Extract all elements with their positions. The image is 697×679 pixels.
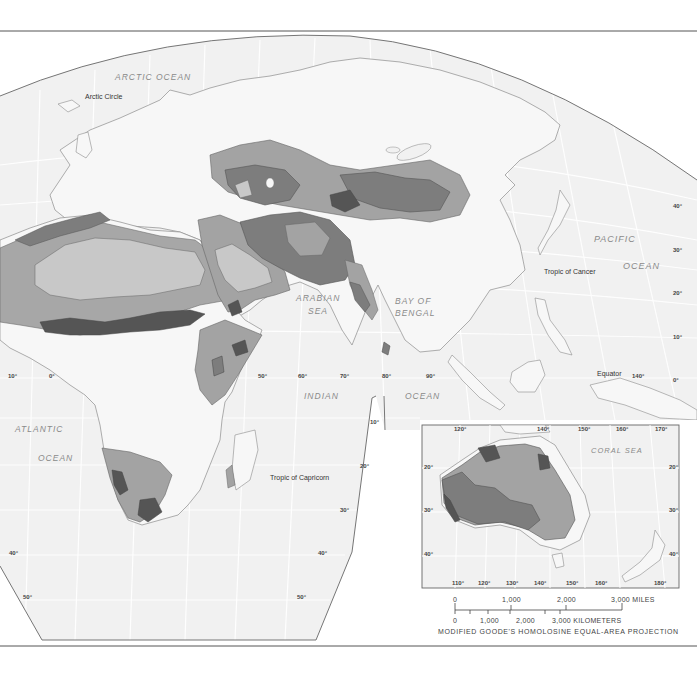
scale-miles-0: 0 bbox=[453, 596, 457, 603]
label-bay-of-bengal-1: BAY OF bbox=[395, 296, 431, 306]
inset-bottom-tick: 140° bbox=[534, 580, 546, 586]
label-pacific-ocean-1: PACIFIC bbox=[594, 234, 636, 244]
inset-top-tick: 150° bbox=[578, 426, 590, 432]
scale-km-1000: 1,000 bbox=[480, 617, 499, 624]
inset-right-tick: 20° bbox=[669, 464, 678, 470]
inset-top-tick: 160° bbox=[616, 426, 628, 432]
lat-tick-right: 0° bbox=[673, 377, 679, 383]
inset-top-tick: 140° bbox=[537, 426, 549, 432]
inset-top-tick: 120° bbox=[454, 426, 466, 432]
label-atlantic-ocean-2: OCEAN bbox=[38, 453, 73, 463]
scale-km-3000: 3,000 KILOMETERS bbox=[552, 617, 621, 624]
label-atlantic-ocean-1: ATLANTIC bbox=[15, 424, 63, 434]
inset-bottom-tick: 160° bbox=[595, 580, 607, 586]
inset-right-tick: 40° bbox=[669, 551, 678, 557]
scale-miles-3000: 3,000 MILES bbox=[611, 596, 655, 603]
label-arctic-ocean: ARCTIC OCEAN bbox=[115, 72, 191, 82]
label-tropic-of-cancer: Tropic of Cancer bbox=[544, 268, 595, 275]
lat-tick-right: 40° bbox=[673, 203, 682, 209]
label-arabian-sea-1: ARABIAN bbox=[296, 293, 340, 303]
lon-tick: 80° bbox=[382, 373, 391, 379]
label-bay-of-bengal-2: BENGAL bbox=[395, 308, 436, 318]
lat-tick-right: 30° bbox=[673, 247, 682, 253]
projection-label: MODIFIED GOODE'S HOMOLOSINE EQUAL-AREA P… bbox=[438, 628, 679, 635]
scale-miles-1000: 1,000 bbox=[502, 596, 521, 603]
label-pacific-ocean-2: OCEAN bbox=[623, 261, 660, 271]
inset-bottom-tick: 110° bbox=[452, 580, 464, 586]
lat-tick-right: 20° bbox=[673, 290, 682, 296]
lon-tick: 140° bbox=[632, 373, 644, 379]
lon-tick: 60° bbox=[298, 373, 307, 379]
lon-tick: 70° bbox=[340, 373, 349, 379]
shade-australia-dark-ne bbox=[538, 454, 550, 470]
inset-left-tick: 30° bbox=[424, 507, 433, 513]
scale-miles-2000: 2,000 bbox=[557, 596, 576, 603]
map-figure: ARCTIC OCEAN PACIFIC OCEAN ARABIAN SEA B… bbox=[0, 0, 697, 679]
lon-tick: 50° bbox=[258, 373, 267, 379]
inset-left-tick: 40° bbox=[424, 551, 433, 557]
map-canvas bbox=[0, 0, 697, 679]
lat-tick-south-left: 40° bbox=[9, 550, 18, 556]
label-coral-sea: CORAL SEA bbox=[591, 446, 643, 455]
label-indian-ocean-1: INDIAN bbox=[304, 391, 339, 401]
lat-tick-south: 10° bbox=[370, 419, 379, 425]
inset-bottom-tick: 150° bbox=[566, 580, 578, 586]
inset-left-tick: 20° bbox=[424, 464, 433, 470]
inset-bottom-tick: 120° bbox=[478, 580, 490, 586]
inset-right-tick: 30° bbox=[669, 507, 678, 513]
lon-tick: 90° bbox=[426, 373, 435, 379]
label-arctic-circle: Arctic Circle bbox=[85, 93, 122, 100]
lat-tick-south: 50° bbox=[297, 594, 306, 600]
scale-bar bbox=[455, 603, 622, 614]
label-tropic-of-capricorn: Tropic of Capricorn bbox=[270, 474, 329, 481]
scale-km-2000: 2,000 bbox=[516, 617, 535, 624]
label-arabian-sea-2: SEA bbox=[308, 306, 328, 316]
lat-tick-right: 10° bbox=[673, 334, 682, 340]
lon-tick: 0° bbox=[49, 373, 55, 379]
inset-top-tick: 170° bbox=[655, 426, 667, 432]
scale-km-0: 0 bbox=[453, 617, 457, 624]
lat-tick-south: 40° bbox=[318, 550, 327, 556]
lon-tick: 10° bbox=[8, 373, 17, 379]
label-equator: Equator bbox=[597, 370, 622, 377]
label-indian-ocean-2: OCEAN bbox=[405, 391, 440, 401]
inset-bottom-tick: 180° bbox=[654, 580, 666, 586]
lat-tick-south: 30° bbox=[340, 507, 349, 513]
lat-tick-south: 20° bbox=[360, 463, 369, 469]
inset-bottom-tick: 130° bbox=[506, 580, 518, 586]
lat-tick-south-left: 50° bbox=[23, 594, 32, 600]
